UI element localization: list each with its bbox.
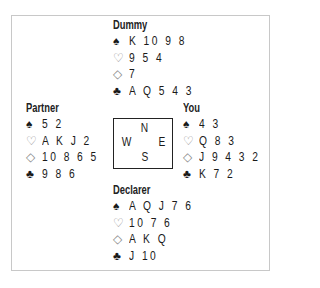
compass-box: N W E S [113, 118, 173, 169]
cards-clubs: J 10 [129, 248, 158, 265]
cards-hearts: Q 8 3 [199, 133, 236, 150]
suit-row-clubs: ♣ A Q 5 4 3 [113, 83, 208, 100]
suit-row-spades: ♠ 4 3 [183, 116, 274, 133]
compass-east: E [159, 136, 166, 148]
cards-spades: K 10 9 8 [129, 33, 187, 50]
hand-label: Declarer [113, 182, 187, 198]
cards-clubs: A Q 5 4 3 [129, 83, 194, 100]
cards-diamonds: J 9 4 3 2 [199, 149, 260, 166]
heart-icon: ♡ [26, 133, 42, 150]
suit-row-spades: ♠ 5 2 [26, 116, 111, 133]
club-icon: ♣ [113, 83, 129, 100]
heart-icon: ♡ [183, 133, 199, 150]
cards-clubs: 9 8 6 [42, 166, 77, 183]
club-icon: ♣ [183, 166, 199, 183]
cards-hearts: A K J 2 [42, 133, 92, 150]
spade-icon: ♠ [113, 33, 129, 50]
suit-row-hearts: ♡ Q 8 3 [183, 133, 274, 150]
compass-north: N [141, 122, 148, 134]
diamond-icon: ◇ [26, 149, 42, 166]
suit-row-clubs: ♣ 9 8 6 [26, 166, 111, 183]
spade-icon: ♠ [183, 116, 199, 133]
suit-row-clubs: ♣ J 10 [113, 248, 207, 265]
cards-diamonds: 7 [129, 66, 137, 83]
diamond-icon: ◇ [113, 231, 129, 248]
hand-south-declarer: Declarer ♠ A Q J 7 6 ♡ 10 7 6 ◇ A K Q ♣ … [113, 182, 207, 264]
compass-west: W [122, 136, 132, 148]
club-icon: ♣ [113, 248, 129, 265]
suit-row-diamonds: ◇ 7 [113, 66, 208, 83]
hand-label: You [183, 100, 254, 116]
diamond-icon: ◇ [113, 66, 129, 83]
spade-icon: ♠ [26, 116, 42, 133]
heart-icon: ♡ [113, 215, 129, 232]
cards-diamonds: 10 8 6 5 [42, 149, 99, 166]
cards-diamonds: A K Q [129, 231, 168, 248]
suit-row-hearts: ♡ 10 7 6 [113, 215, 207, 232]
cards-spades: 5 2 [42, 116, 64, 133]
suit-row-clubs: ♣ K 7 2 [183, 166, 274, 183]
spade-icon: ♠ [113, 198, 129, 215]
club-icon: ♣ [26, 166, 42, 183]
diamond-icon: ◇ [183, 149, 199, 166]
suit-row-spades: ♠ A Q J 7 6 [113, 198, 207, 215]
hand-label: Dummy [113, 17, 187, 33]
suit-row-spades: ♠ K 10 9 8 [113, 33, 208, 50]
hand-east-you: You ♠ 4 3 ♡ Q 8 3 ◇ J 9 4 3 2 ♣ K 7 2 [183, 100, 274, 182]
cards-spades: A Q J 7 6 [129, 198, 193, 215]
cards-hearts: 9 5 4 [129, 50, 164, 67]
hand-north-dummy: Dummy ♠ K 10 9 8 ♡ 9 5 4 ◇ 7 ♣ A Q 5 4 3 [113, 17, 208, 99]
hand-west-partner: Partner ♠ 5 2 ♡ A K J 2 ◇ 10 8 6 5 ♣ 9 8… [26, 100, 111, 182]
suit-row-hearts: ♡ 9 5 4 [113, 50, 208, 67]
suit-row-diamonds: ◇ A K Q [113, 231, 207, 248]
compass-south: S [142, 151, 149, 163]
suit-row-diamonds: ◇ J 9 4 3 2 [183, 149, 274, 166]
hand-label: Partner [26, 100, 92, 116]
cards-spades: 4 3 [199, 116, 221, 133]
suit-row-diamonds: ◇ 10 8 6 5 [26, 149, 111, 166]
heart-icon: ♡ [113, 50, 129, 67]
cards-clubs: K 7 2 [199, 166, 235, 183]
suit-row-hearts: ♡ A K J 2 [26, 133, 111, 150]
cards-hearts: 10 7 6 [129, 215, 172, 232]
